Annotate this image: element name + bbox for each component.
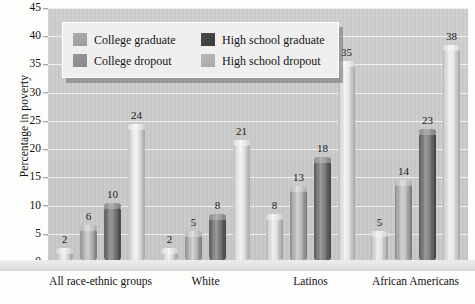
bar-latinos-college-graduate: [266, 217, 283, 262]
y-axis-tick-5: 5: [35, 228, 41, 240]
bar-value-label: 2: [153, 234, 187, 245]
bar-value-label: 23: [411, 115, 445, 126]
legend-item-college-dropout: College dropout: [73, 50, 201, 71]
bar-cap: [233, 140, 250, 146]
y-axis-tick-40: 40: [30, 30, 42, 42]
bar-value-label: 8: [201, 200, 235, 211]
x-axis-label-all-race-ethnic-groups: All race-ethnic groups: [49, 276, 152, 288]
legend-item-high-school-graduate: High school graduate: [201, 29, 330, 50]
bar-african-americans-college-dropout: [395, 183, 412, 262]
legend-item-high-school-dropout: High school dropout: [201, 50, 330, 71]
bar-white-college-dropout: [185, 234, 202, 262]
legend-label-college-graduate: College graduate: [94, 34, 176, 46]
x-axis-label-african-americans: African Americans: [372, 276, 459, 288]
y-axis-tick-30: 30: [30, 87, 42, 99]
legend-item-college-graduate: College graduate: [73, 29, 201, 50]
bar-all-race-ethnic-groups-high-school-dropout: [128, 127, 145, 262]
legend-label-college-dropout: College dropout: [94, 55, 172, 67]
bar-cap: [128, 124, 145, 130]
bar-white-high-school-dropout: [233, 143, 250, 262]
bar-cap: [185, 231, 202, 237]
bar-cap: [443, 45, 460, 51]
y-axis-tick-35: 35: [30, 59, 42, 71]
y-axis-tick-10: 10: [30, 200, 42, 212]
x-axis-label-latinos: Latinos: [293, 276, 328, 288]
legend-grid: College graduate High school graduate Co…: [73, 29, 330, 71]
bar-value-label: 5: [363, 217, 397, 228]
bar-cap: [161, 248, 178, 254]
bar-all-race-ethnic-groups-high-school-graduate: [104, 206, 121, 262]
chart-legend: College graduate High school graduate Co…: [62, 22, 339, 78]
y-axis-tick-15: 15: [30, 172, 42, 184]
bar-value-label: 38: [435, 31, 469, 42]
poverty-by-education-bar-chart: Percentage in poverty 454035302520151050…: [0, 0, 475, 304]
bar-cap: [314, 157, 331, 163]
legend-swatch-icon-high-school-dropout: [201, 54, 215, 67]
bar-cap: [209, 214, 226, 220]
bar-latinos-high-school-graduate: [314, 160, 331, 262]
bar-cap: [290, 186, 307, 192]
bar-african-americans-high-school-graduate: [419, 132, 436, 262]
bar-cap: [395, 180, 412, 186]
bar-value-label: 21: [225, 126, 259, 137]
bar-value-label: 8: [258, 200, 292, 211]
bar-latinos-high-school-dropout: [338, 64, 355, 262]
y-axis-tick-45: 45: [30, 2, 42, 14]
y-axis-tick-25: 25: [30, 115, 42, 127]
bar-latinos-college-dropout: [290, 189, 307, 262]
bar-cap: [104, 203, 121, 209]
legend-swatch-icon-high-school-graduate: [201, 33, 215, 46]
bar-cap: [371, 231, 388, 237]
bar-cap: [419, 129, 436, 135]
y-axis-tick-20: 20: [30, 143, 42, 155]
bar-all-race-ethnic-groups-college-dropout: [80, 228, 97, 262]
bar-african-americans-high-school-dropout: [443, 48, 460, 262]
legend-swatch-icon-college-dropout: [73, 54, 87, 67]
bar-cap: [266, 214, 283, 220]
legend-label-high-school-graduate: High school graduate: [222, 34, 325, 46]
bar-african-americans-college-graduate: [371, 234, 388, 262]
x-axis-group-labels: All race-ethnic groupsWhiteLatinosAfrica…: [48, 276, 468, 296]
legend-swatch-icon-college-graduate: [73, 33, 87, 46]
bar-value-label: 18: [306, 143, 340, 154]
bar-value-label: 2: [48, 234, 82, 245]
bar-cap: [80, 225, 97, 231]
chart-floor: [0, 260, 475, 271]
legend-label-high-school-dropout: High school dropout: [222, 55, 321, 67]
bar-value-label: 13: [282, 172, 316, 183]
x-axis-label-white: White: [191, 276, 219, 288]
bar-cap: [338, 61, 355, 67]
bar-cap: [56, 248, 73, 254]
bar-value-label: 14: [387, 166, 421, 177]
y-axis-tick-labels: 454035302520151050: [0, 8, 48, 262]
bar-value-label: 10: [96, 189, 130, 200]
bar-value-label: 24: [120, 110, 154, 121]
bar-value-label: 5: [177, 217, 211, 228]
bar-white-high-school-graduate: [209, 217, 226, 262]
bar-value-label: 6: [72, 211, 106, 222]
